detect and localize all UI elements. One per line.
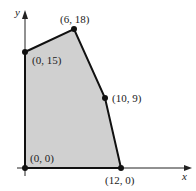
vertex-10-9 bbox=[102, 95, 108, 101]
vertex-6-18 bbox=[71, 26, 77, 32]
y-axis-label: y bbox=[14, 6, 20, 18]
y-axis-arrow-icon bbox=[22, 10, 28, 19]
vertex-12-0 bbox=[118, 165, 124, 171]
vertex-0-0 bbox=[22, 165, 28, 171]
vertex-label-12-0: (12, 0) bbox=[105, 174, 135, 187]
vertex-label-0-0: (0, 0) bbox=[30, 152, 54, 165]
x-axis-label: x bbox=[181, 170, 187, 182]
vertex-label-6-18: (6, 18) bbox=[60, 13, 90, 26]
vertex-0-15 bbox=[22, 49, 28, 55]
feasible-region-diagram: y x (6, 18) (0, 15) (10, 9) (0, 0) (12, … bbox=[0, 0, 196, 191]
vertex-label-0-15: (0, 15) bbox=[32, 54, 62, 67]
vertex-label-10-9: (10, 9) bbox=[112, 92, 142, 105]
